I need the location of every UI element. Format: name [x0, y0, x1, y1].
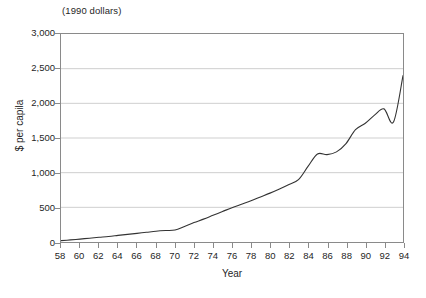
x-axis-tick-mark [270, 243, 271, 248]
x-axis-tick-mark [232, 243, 233, 248]
data-series-line [61, 76, 403, 241]
y-axis-tick-mark [55, 138, 60, 139]
y-axis-tick-mark [55, 33, 60, 34]
y-axis-tick-label-group: 05001,0001,5002,0002,5003,000 [0, 33, 55, 243]
x-axis-tick-mark [289, 243, 290, 248]
x-axis-tick-mark [175, 243, 176, 248]
x-axis-tick-label-group: 58606264666870727476788082848688909294 [60, 250, 404, 264]
y-axis-tick-label: 0 [3, 238, 55, 248]
y-axis-tick-label: 3,000 [3, 28, 55, 38]
x-axis-title: Year [60, 268, 404, 279]
y-axis-tick-mark [55, 173, 60, 174]
x-axis-tick-mark [156, 243, 157, 248]
x-axis-tick-mark [404, 243, 405, 248]
x-axis-tick-mark [308, 243, 309, 248]
y-axis-tick-mark [55, 208, 60, 209]
y-axis-tick-label: 1,000 [3, 168, 55, 178]
y-axis-tick-label: 2,500 [3, 63, 55, 73]
y-axis-tick-label: 1,500 [3, 133, 55, 143]
x-axis-tick-mark [385, 243, 386, 248]
x-axis-tick-mark [328, 243, 329, 248]
x-axis-tick-mark [213, 243, 214, 248]
plot-area [60, 33, 404, 243]
y-axis-tick-mark [55, 103, 60, 104]
y-axis-tick-label: 500 [3, 203, 55, 213]
y-axis-tick-mark [55, 68, 60, 69]
x-axis-tick-mark [194, 243, 195, 248]
data-line-group [61, 76, 403, 241]
x-axis-tick-label: 94 [393, 250, 415, 261]
chart-figure: (1990 dollars) $ per capila 05001,0001,5… [0, 0, 426, 298]
x-axis-tick-mark [117, 243, 118, 248]
gridline-group [61, 69, 403, 208]
unit-caption: (1990 dollars) [62, 5, 122, 16]
x-axis-tick-mark [347, 243, 348, 248]
x-axis-tick-mark [251, 243, 252, 248]
plot-svg [61, 34, 403, 242]
x-axis-tick-mark [366, 243, 367, 248]
x-axis-tick-mark [79, 243, 80, 248]
x-axis-tick-mark [98, 243, 99, 248]
x-axis-tick-mark [136, 243, 137, 248]
x-axis-tick-mark [60, 243, 61, 248]
y-axis-tick-label: 2,000 [3, 98, 55, 108]
